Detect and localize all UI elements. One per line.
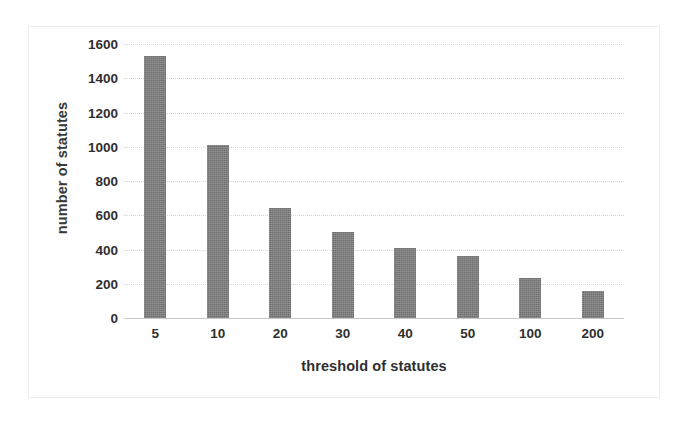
bar-slot [562,44,625,318]
y-axis-tick-labels: 02004006008001000120014001600 [58,44,118,318]
bar-slot [124,44,187,318]
bar-slot [499,44,562,318]
x-tick-label: 200 [562,326,625,341]
bar-slot [374,44,437,318]
y-tick-label: 600 [58,208,118,223]
bar-slot [249,44,312,318]
bar[interactable] [332,232,354,318]
y-tick-label: 1200 [58,105,118,120]
y-tick-label: 200 [58,276,118,291]
x-axis-tick-labels: 51020304050100200 [124,326,624,350]
bar[interactable] [144,56,166,318]
x-tick-label: 100 [499,326,562,341]
y-tick-label: 800 [58,174,118,189]
y-tick-label: 400 [58,242,118,257]
y-tick-label: 0 [58,311,118,326]
x-tick-label: 30 [312,326,375,341]
x-tick-label: 50 [437,326,500,341]
bar-slot [312,44,375,318]
bar[interactable] [269,208,291,318]
bar[interactable] [207,145,229,318]
y-tick-label: 1400 [58,71,118,86]
bar[interactable] [519,278,541,318]
bar-slot [437,44,500,318]
y-tick-label: 1600 [58,37,118,52]
bar[interactable] [394,248,416,318]
plot-area [124,44,624,318]
x-tick-label: 10 [187,326,250,341]
bar[interactable] [457,256,479,319]
bar-chart: number of statutes 020040060080010001200… [0,0,691,424]
gridline-0 [124,318,624,319]
x-tick-label: 5 [124,326,187,341]
bar-slot [187,44,250,318]
bar[interactable] [582,291,604,318]
x-tick-label: 20 [249,326,312,341]
x-axis-title: threshold of statutes [124,358,624,374]
bars-group [124,44,624,318]
y-tick-label: 1000 [58,139,118,154]
x-tick-label: 40 [374,326,437,341]
